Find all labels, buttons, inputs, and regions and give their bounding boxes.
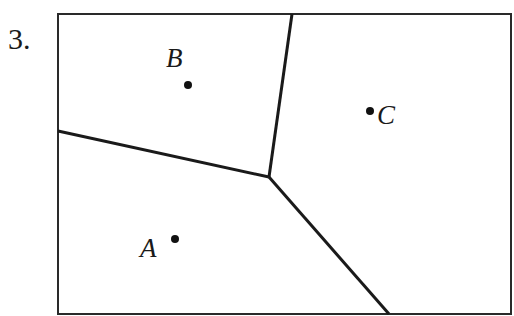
voronoi-diagram: A B C	[0, 0, 514, 316]
point-b-dot	[184, 81, 192, 89]
point-a-dot	[171, 235, 179, 243]
boundary-a-c	[269, 177, 389, 314]
boundary-b-c	[269, 14, 292, 177]
point-a-label: A	[138, 233, 157, 263]
point-c-label: C	[377, 100, 396, 130]
point-c-dot	[366, 107, 374, 115]
boundary-a-b	[58, 131, 269, 177]
point-b-label: B	[166, 43, 183, 73]
